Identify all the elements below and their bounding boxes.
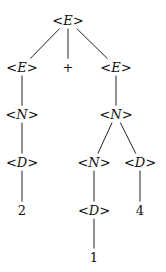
terminal-node: + (63, 60, 74, 75)
terminal-node: 2 (18, 203, 26, 218)
tree-edge (98, 123, 112, 154)
tree-edge (77, 29, 108, 59)
nonterminal-node: <D> (6, 155, 38, 170)
parse-tree-diagram: <E><E>+<E><N><N><D><N><D>2<D>41 (0, 0, 166, 272)
tree-edge (30, 29, 59, 59)
nonterminal-node: <D> (78, 203, 110, 218)
terminal-node: 1 (90, 250, 98, 265)
nonterminal-node: <D> (124, 155, 156, 170)
nonterminal-node: <N> (77, 155, 110, 170)
tree-edge (120, 123, 136, 154)
tree-nodes: <E><E>+<E><N><N><D><N><D>2<D>41 (5, 13, 156, 265)
terminal-node: 4 (136, 203, 144, 218)
nonterminal-node: <N> (5, 107, 38, 122)
nonterminal-node: <E> (100, 60, 131, 75)
nonterminal-node: <E> (52, 13, 83, 28)
nonterminal-node: <N> (99, 107, 132, 122)
nonterminal-node: <E> (6, 60, 37, 75)
